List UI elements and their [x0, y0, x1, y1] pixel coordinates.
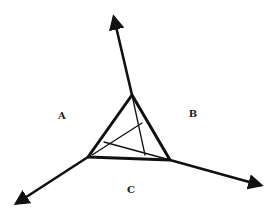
outward-arrows	[17, 18, 260, 203]
triangle-diagram: A B C	[0, 0, 275, 213]
arrow-up	[114, 18, 132, 95]
inner-lines	[92, 95, 170, 160]
arrow-down-left	[17, 157, 88, 203]
region-label-b: B	[189, 109, 197, 119]
region-label-a: A	[58, 111, 66, 121]
region-label-c: C	[127, 185, 135, 195]
arrow-down-right	[170, 160, 260, 185]
diagram-canvas	[0, 0, 275, 213]
